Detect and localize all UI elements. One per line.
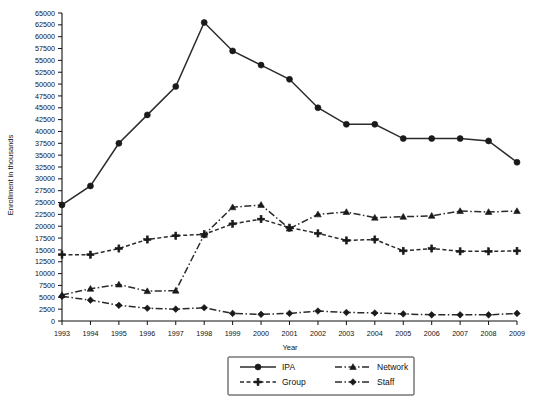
y-tick-label: 42500: [35, 115, 55, 124]
data-point: [400, 136, 406, 142]
x-tick-label: 2001: [282, 329, 298, 338]
y-tick-label: 17500: [35, 234, 55, 243]
y-tick-label: 60000: [35, 32, 55, 41]
y-tick-label: 37500: [35, 139, 55, 148]
data-point: [116, 302, 123, 309]
data-point: [400, 311, 407, 318]
y-axis-ticks: 0250050007500100001250015000175002000022…: [35, 9, 62, 326]
x-tick-label: 2004: [367, 329, 383, 338]
data-point: [116, 281, 123, 287]
data-point: [172, 232, 179, 239]
x-tick-label: 2000: [253, 329, 269, 338]
data-point: [485, 248, 492, 255]
y-tick-label: 27500: [35, 186, 55, 195]
data-point: [87, 297, 94, 304]
data-point: [144, 305, 151, 312]
data-point: [87, 251, 94, 258]
data-point: [343, 309, 350, 316]
series-staff: [59, 293, 521, 318]
y-tick-label: 2500: [39, 305, 55, 314]
legend-item-label: IPA: [282, 362, 295, 372]
data-point: [371, 236, 378, 243]
data-point: [400, 213, 407, 219]
data-point: [428, 213, 435, 219]
data-point: [115, 245, 122, 252]
data-point: [230, 48, 236, 54]
data-point: [144, 112, 150, 118]
y-tick-label: 57500: [35, 44, 55, 53]
y-tick-label: 65000: [35, 9, 55, 18]
y-tick-label: 32500: [35, 163, 55, 172]
series-line-network: [62, 205, 517, 295]
x-tick-label: 2002: [310, 329, 326, 338]
data-point: [229, 220, 236, 227]
x-tick-label: 2008: [481, 329, 497, 338]
data-point: [87, 183, 93, 189]
x-tick-label: 2006: [424, 329, 440, 338]
data-point: [315, 105, 321, 111]
x-tick-label: 1996: [139, 329, 155, 338]
x-tick-label: 2003: [338, 329, 354, 338]
y-tick-label: 20000: [35, 222, 55, 231]
line-chart: Enrollment in thousands 0250050007500100…: [0, 0, 534, 402]
y-tick-label: 62500: [35, 20, 55, 29]
data-point: [258, 311, 265, 318]
data-point: [372, 310, 379, 317]
legend-item-label: Staff: [377, 377, 395, 387]
y-tick-label: 0: [51, 317, 55, 326]
y-tick-label: 52500: [35, 68, 55, 77]
data-point: [514, 310, 521, 317]
data-point: [144, 236, 151, 243]
data-point: [513, 247, 520, 254]
y-tick-label: 10000: [35, 269, 55, 278]
x-tick-label: 1994: [82, 329, 98, 338]
y-tick-label: 15000: [35, 246, 55, 255]
series-layer: [58, 19, 520, 318]
x-tick-label: 2009: [509, 329, 525, 338]
series-group: [58, 216, 520, 259]
y-axis-title-text: Enrollment in thousands: [6, 135, 15, 216]
data-point: [343, 121, 349, 127]
chart-figure: Enrollment in thousands 0250050007500100…: [0, 0, 534, 402]
x-tick-label: 1995: [111, 329, 127, 338]
data-point: [485, 312, 492, 319]
data-point: [457, 248, 464, 255]
x-tick-label: 2007: [452, 329, 468, 338]
x-axis-title-text: Year: [282, 343, 298, 352]
series-network: [59, 202, 521, 298]
data-point: [287, 76, 293, 82]
data-point: [201, 19, 207, 25]
x-axis-title: Year: [282, 343, 298, 352]
data-point: [173, 83, 179, 89]
data-point: [172, 306, 179, 313]
series-ipa: [59, 19, 520, 207]
data-point: [400, 247, 407, 254]
x-axis-ticks: 1993199419951996199719981999200020012002…: [54, 321, 525, 338]
data-point: [514, 159, 520, 165]
legend-item-label: Group: [282, 377, 306, 387]
data-point: [486, 138, 492, 144]
data-point: [58, 251, 65, 258]
x-tick-label: 2005: [395, 329, 411, 338]
data-point: [429, 136, 435, 142]
x-tick-label: 1999: [225, 329, 241, 338]
data-point: [229, 310, 236, 317]
data-point: [457, 312, 464, 319]
y-tick-label: 55000: [35, 56, 55, 65]
data-point: [286, 310, 293, 317]
data-point: [343, 237, 350, 244]
data-point: [315, 308, 322, 315]
x-tick-label: 1998: [196, 329, 212, 338]
y-tick-label: 50000: [35, 80, 55, 89]
data-point: [258, 62, 264, 68]
x-tick-label: 1997: [168, 329, 184, 338]
x-tick-label: 1993: [54, 329, 70, 338]
y-tick-label: 30000: [35, 174, 55, 183]
y-axis-title: Enrollment in thousands: [6, 135, 15, 216]
y-tick-label: 7500: [39, 281, 55, 290]
y-tick-label: 5000: [39, 293, 55, 302]
data-point: [372, 121, 378, 127]
data-point: [201, 304, 208, 311]
series-line-ipa: [62, 22, 517, 204]
data-point: [116, 140, 122, 146]
